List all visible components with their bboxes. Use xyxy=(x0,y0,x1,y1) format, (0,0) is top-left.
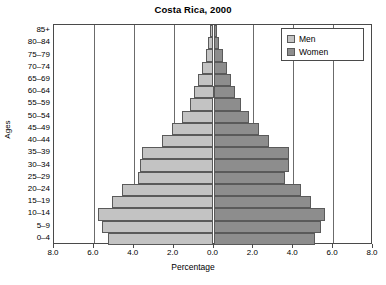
y-tick-label: 25–29 xyxy=(4,173,50,181)
legend-swatch-women-icon xyxy=(287,48,295,56)
bar-women xyxy=(214,37,220,49)
x-tick-mark xyxy=(53,244,54,248)
x-tick-mark xyxy=(173,244,174,248)
bar-men xyxy=(102,221,214,233)
x-tick-label: 2.0 xyxy=(232,248,272,257)
bar-row xyxy=(54,74,371,86)
bar-women xyxy=(214,196,312,208)
bar-row xyxy=(54,86,371,98)
bar-men xyxy=(122,184,214,196)
bar-women xyxy=(214,135,270,147)
bar-men xyxy=(198,74,214,86)
bar-men xyxy=(138,172,214,184)
x-tick-label: 8.0 xyxy=(33,248,73,257)
bar-men xyxy=(142,147,214,159)
bar-men xyxy=(112,196,214,208)
bar-men xyxy=(140,159,214,171)
bar-women xyxy=(214,147,290,159)
bar-row xyxy=(54,111,371,123)
legend-item-women: Women xyxy=(287,45,363,58)
x-tick-mark xyxy=(93,244,94,248)
bar-row xyxy=(54,98,371,110)
bar-men xyxy=(202,62,214,74)
bar-row xyxy=(54,196,371,208)
y-tick-label: 35–39 xyxy=(4,148,50,156)
y-tick-label: 85+ xyxy=(4,26,50,34)
bar-row xyxy=(54,159,371,171)
bar-row xyxy=(54,147,371,159)
bar-women xyxy=(214,25,218,37)
bar-row xyxy=(54,123,371,135)
y-tick-label: 50–54 xyxy=(4,112,50,120)
x-tick-mark xyxy=(332,244,333,248)
x-tick-mark xyxy=(252,244,253,248)
x-tick-label: 0.0 xyxy=(193,248,233,257)
x-axis-tick-labels: 8.06.04.02.00.02.04.06.08.0 xyxy=(0,246,386,260)
bar-row xyxy=(54,184,371,196)
x-axis-title: Percentage xyxy=(0,262,386,272)
bar-women xyxy=(214,74,232,86)
x-tick-mark xyxy=(292,244,293,248)
y-tick-label: 65–69 xyxy=(4,75,50,83)
legend-label-women: Women xyxy=(299,47,328,57)
bar-men xyxy=(108,233,214,245)
x-tick-label: 6.0 xyxy=(73,248,113,257)
legend-swatch-men-icon xyxy=(287,35,295,43)
bar-women xyxy=(214,172,286,184)
bar-row xyxy=(54,208,371,220)
bar-women xyxy=(214,184,302,196)
x-tick-label: 2.0 xyxy=(153,248,193,257)
chart-title: Costa Rica, 2000 xyxy=(0,4,386,15)
bar-men xyxy=(172,123,214,135)
y-tick-label: 45–49 xyxy=(4,124,50,132)
bar-row xyxy=(54,172,371,184)
bar-men xyxy=(98,208,214,220)
y-tick-label: 55–59 xyxy=(4,99,50,107)
bar-row xyxy=(54,62,371,74)
bar-women xyxy=(214,233,316,245)
bar-women xyxy=(214,221,322,233)
y-tick-label: 40–44 xyxy=(4,136,50,144)
population-pyramid-chart: Costa Rica, 2000 Ages 85+80–8475–7970–74… xyxy=(0,0,386,285)
y-tick-label: 20–24 xyxy=(4,185,50,193)
y-tick-label: 75–79 xyxy=(4,51,50,59)
bar-men xyxy=(182,111,214,123)
x-tick-mark xyxy=(372,244,373,248)
bar-women xyxy=(214,86,236,98)
legend-item-men: Men xyxy=(287,32,363,45)
bar-women xyxy=(214,111,250,123)
bar-row xyxy=(54,221,371,233)
x-tick-label: 8.0 xyxy=(352,248,386,257)
x-tick-label: 4.0 xyxy=(272,248,312,257)
x-tick-mark xyxy=(133,244,134,248)
bar-row xyxy=(54,135,371,147)
bar-men xyxy=(190,98,214,110)
bar-women xyxy=(214,208,326,220)
y-axis-tick-labels: 85+80–8475–7970–7465–6960–6455–5950–5445… xyxy=(0,24,50,244)
y-tick-label: 15–19 xyxy=(4,197,50,205)
legend: Men Women xyxy=(281,28,364,61)
bar-women xyxy=(214,62,228,74)
x-tick-label: 6.0 xyxy=(312,248,352,257)
y-tick-label: 10–14 xyxy=(4,209,50,217)
y-tick-label: 70–74 xyxy=(4,63,50,71)
bar-women xyxy=(214,98,242,110)
y-tick-label: 30–34 xyxy=(4,161,50,169)
bar-men xyxy=(206,49,214,61)
y-tick-label: 0–4 xyxy=(4,234,50,242)
bar-women xyxy=(214,159,290,171)
y-tick-label: 5–9 xyxy=(4,222,50,230)
legend-label-men: Men xyxy=(299,34,316,44)
x-tick-mark xyxy=(213,244,214,248)
bar-men xyxy=(194,86,214,98)
y-tick-label: 80–84 xyxy=(4,38,50,46)
bar-men xyxy=(162,135,214,147)
bar-women xyxy=(214,49,224,61)
bar-women xyxy=(214,123,260,135)
x-tick-label: 4.0 xyxy=(113,248,153,257)
y-tick-label: 60–64 xyxy=(4,87,50,95)
